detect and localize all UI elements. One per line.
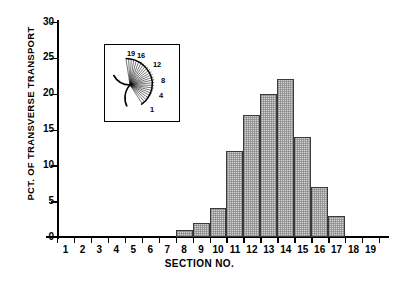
x-tick-mark	[345, 237, 346, 243]
x-tick-mark	[108, 237, 109, 243]
x-tick-mark	[159, 237, 160, 243]
bar	[193, 223, 210, 237]
x-axis-label: SECTION NO.	[0, 258, 399, 269]
y-tick-label: 30	[43, 16, 54, 27]
x-tick-mark	[362, 237, 363, 243]
x-tick-label: 18	[345, 244, 363, 255]
bar	[260, 94, 277, 237]
fan-rose-svg: 191612841	[105, 45, 178, 120]
x-tick-label: 7	[158, 244, 176, 255]
y-tick-label: 10	[43, 159, 54, 170]
bar	[294, 137, 311, 237]
x-tick-label: 4	[107, 244, 125, 255]
y-tick-label: 20	[43, 87, 54, 98]
x-tick-mark	[243, 237, 244, 243]
fan-label: 12	[153, 60, 161, 69]
fan-spokes	[126, 59, 154, 104]
x-tick-label: 17	[328, 244, 346, 255]
x-tick-mark	[176, 237, 177, 243]
fan-label: 19	[127, 49, 135, 58]
x-tick-mark	[57, 237, 58, 243]
y-tick-label: 15	[43, 123, 54, 134]
x-tick-label: 12	[243, 244, 261, 255]
x-tick-mark	[328, 237, 329, 243]
x-tick-mark	[210, 237, 211, 243]
x-tick-label: 15	[294, 244, 312, 255]
x-tick-label: 5	[124, 244, 142, 255]
x-tick-mark	[294, 237, 295, 243]
fan-label: 8	[161, 76, 165, 85]
bar	[210, 208, 227, 237]
bar	[176, 230, 193, 237]
y-tick-label: 5	[48, 195, 54, 206]
x-tick-label: 10	[209, 244, 227, 255]
x-tick-label: 6	[141, 244, 159, 255]
y-axis-label: PCT. OF TRANSVERSE TRANSPORT	[25, 0, 36, 229]
y-tick-label: 25	[43, 51, 54, 62]
fan-inner-curve-lower	[125, 85, 130, 107]
y-tick-label: 0	[48, 231, 54, 242]
fan-label: 4	[159, 91, 164, 100]
x-tick-label: 2	[73, 244, 91, 255]
x-tick-mark	[193, 237, 194, 243]
x-tick-mark	[226, 237, 227, 243]
x-tick-label: 9	[192, 244, 210, 255]
x-tick-label: 19	[362, 244, 380, 255]
x-tick-mark	[311, 237, 312, 243]
fan-label: 16	[137, 51, 145, 60]
fan-inner-curve-upper	[114, 75, 131, 85]
bar	[226, 151, 243, 237]
bar	[277, 79, 294, 237]
fan-label: 1	[150, 105, 154, 114]
chart-figure: PCT. OF TRANSVERSE TRANSPORT 05101520253…	[0, 0, 399, 281]
x-tick-mark	[260, 237, 261, 243]
bar	[311, 187, 328, 237]
x-tick-mark	[379, 237, 380, 243]
x-tick-label: 11	[226, 244, 244, 255]
x-tick-mark	[277, 237, 278, 243]
fan-rose-diagram-inset: 191612841	[104, 44, 180, 122]
x-tick-label: 1	[56, 244, 74, 255]
bar	[243, 115, 260, 237]
x-tick-label: 8	[175, 244, 193, 255]
x-tick-mark	[142, 237, 143, 243]
x-axis-ticks: 12345678910111213141516171819	[57, 237, 379, 259]
x-tick-mark	[125, 237, 126, 243]
x-tick-label: 14	[277, 244, 295, 255]
x-tick-label: 3	[90, 244, 108, 255]
x-tick-mark	[91, 237, 92, 243]
x-tick-mark	[74, 237, 75, 243]
bar	[328, 216, 345, 238]
x-tick-label: 16	[311, 244, 329, 255]
x-tick-label: 13	[260, 244, 278, 255]
